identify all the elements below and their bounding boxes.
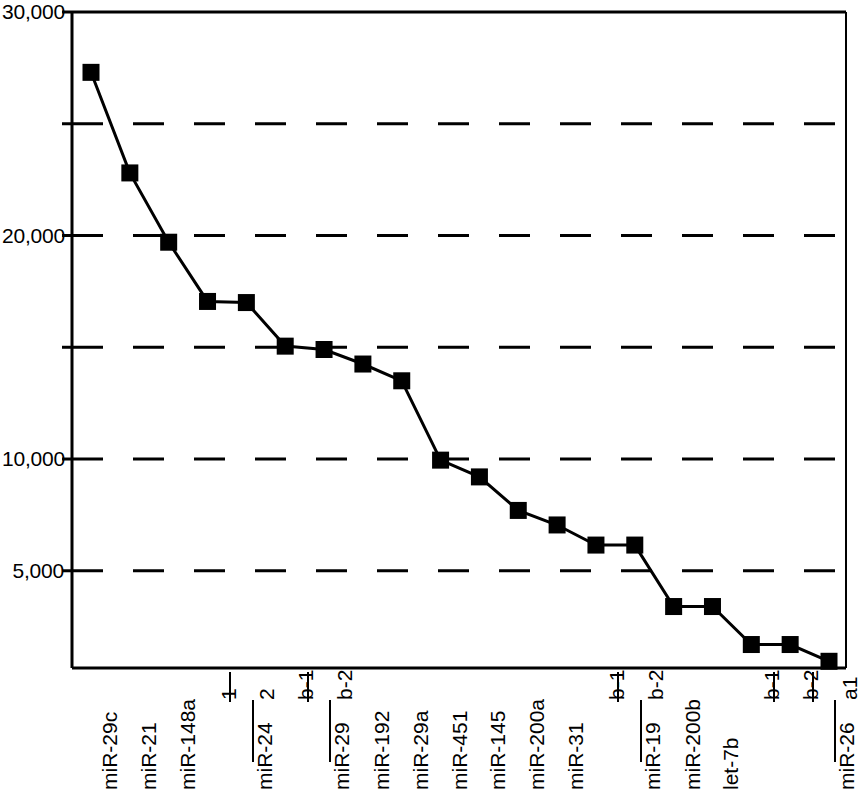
x-axis-category-group: miR-2412 [188, 670, 266, 792]
data-series-line [91, 72, 829, 661]
data-point-marker [665, 598, 682, 615]
data-point-marker [393, 372, 410, 389]
sub-label-divider [307, 672, 309, 702]
x-axis-category-group: miR-200a [499, 670, 538, 792]
data-point-marker [626, 537, 643, 554]
x-axis-category-group: miR-145 [460, 670, 499, 792]
data-point-marker [743, 636, 760, 653]
data-point-marker [199, 293, 216, 310]
x-axis-category-labels: miR-29cmiR-21miR-148amiR-2412miR-29b-1b-… [0, 670, 848, 792]
data-point-marker [83, 64, 100, 81]
data-point-marker [238, 294, 255, 311]
x-axis-category-group: miR-21 [110, 670, 149, 792]
x-axis-category-group: miR-19b-1b-2 [577, 670, 655, 792]
x-axis-sub-label: a1 [839, 578, 860, 700]
x-axis-category-group: miR-31 [538, 670, 577, 792]
sub-label-divider [773, 672, 775, 702]
x-axis-category-group: miR-29a [382, 670, 421, 792]
data-point-marker [277, 338, 294, 355]
sub-label-divider [617, 672, 619, 702]
plot-area [0, 0, 848, 700]
x-axis-category-group: miR-192 [343, 670, 382, 792]
gridlines [72, 124, 846, 571]
data-point-marker [121, 164, 138, 181]
x-axis-category-group: let-7b [693, 670, 732, 792]
data-point-marker [160, 234, 177, 251]
x-axis-category-group: miR-451 [421, 670, 460, 792]
data-point-marker [782, 636, 799, 653]
sub-label-divider [229, 672, 231, 702]
data-point-marker [549, 516, 566, 533]
data-point-marker [704, 598, 721, 615]
data-point-marker [587, 537, 604, 554]
data-point-marker [471, 468, 488, 485]
data-point-marker [354, 356, 371, 373]
data-point-markers [83, 64, 838, 670]
sub-label-divider [812, 672, 814, 702]
x-axis-category-group: miR-148a [149, 670, 188, 792]
data-point-marker [510, 502, 527, 519]
data-point-marker [432, 452, 449, 469]
x-axis-category-group: miR-29b-1b-2 [266, 670, 344, 792]
x-axis-category-group: miR-200b [654, 670, 693, 792]
data-point-marker [316, 341, 333, 358]
x-axis-category-group: miR-29c [72, 670, 111, 792]
x-axis-category-group: miR-26b-1b-2a1 [732, 670, 849, 792]
